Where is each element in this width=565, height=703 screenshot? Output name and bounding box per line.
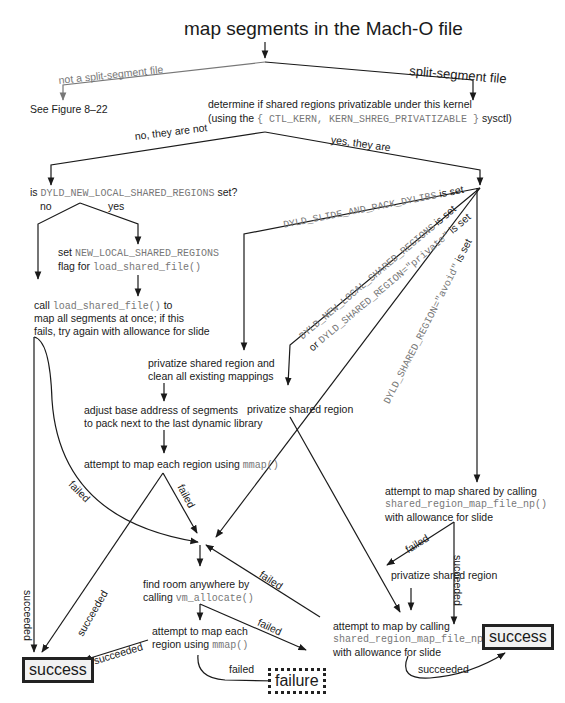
attempt-each-line2: region using mmap() — [152, 638, 248, 652]
call-load-line3: fails, try again with allowance for slid… — [34, 325, 210, 338]
see-figure: See Figure 8–22 — [30, 103, 108, 116]
determine-line1: determine if shared regions privatizable… — [208, 98, 472, 111]
attempt-by-code: shared_region_map_file_np() — [333, 633, 495, 646]
label-is-set-yes: yes — [108, 200, 124, 213]
attempt-mmap: attempt to map each region using mmap() — [84, 458, 279, 472]
find-room-line2: calling vm_allocate() — [143, 591, 254, 605]
call-load-line1: call load_shared_file() to — [34, 299, 172, 313]
label-shared-succeeded: succeeded — [452, 555, 464, 606]
is-set-question: is DYLD_NEW_LOCAL_SHARED_REGIONS set? — [30, 186, 237, 200]
privatize-mid: privatize shared region — [247, 403, 353, 416]
attempt-each-line1: attempt to map each — [152, 625, 248, 638]
privatize-clean-line2: clean all existing mappings — [148, 370, 274, 383]
success-box-left: success — [22, 657, 94, 683]
privatize-right: privatize shared region — [391, 569, 497, 582]
attempt-shared-line1: attempt to map shared by calling — [385, 485, 537, 498]
call-load-line2: map all segments at once; if this — [34, 312, 184, 325]
attempt-by-line3: with allowance for slide — [333, 646, 441, 659]
privatize-clean-line1: privatize shared region and — [148, 357, 275, 370]
edge-priv-no — [51, 132, 265, 185]
adjust-line2: to pack next to the last dynamic library — [84, 417, 263, 430]
adjust-line1: adjust base address of segments — [84, 404, 238, 417]
label-by-succeeded: succeeded — [418, 663, 469, 676]
edge-attempt-succeeded — [42, 473, 163, 652]
edge-priv-mid-down — [290, 417, 400, 612]
find-room-line1: find room anywhere by — [143, 578, 249, 591]
attempt-by-line1: attempt to map by calling — [333, 620, 450, 633]
set-flag-line1: set NEW_LOCAL_SHARED_REGIONS — [58, 246, 219, 260]
attempt-shared-line3: with allowance for slide — [385, 511, 493, 524]
label-call-succeeded: succeeded — [22, 590, 34, 641]
failure-box: failure — [268, 668, 326, 694]
set-flag-line2: flag for load_shared_file() — [58, 260, 201, 274]
determine-line2: (using the { CTL_KERN, KERN_SHREG_PRIVAT… — [208, 112, 512, 126]
diagram-title: map segments in the Mach-O file — [184, 22, 463, 35]
success-box-right: success — [482, 624, 554, 650]
label-each-failed: failed — [229, 663, 254, 676]
label-is-set-no: no — [40, 200, 52, 213]
attempt-shared-code: shared_region_map_file_np() — [385, 498, 547, 511]
